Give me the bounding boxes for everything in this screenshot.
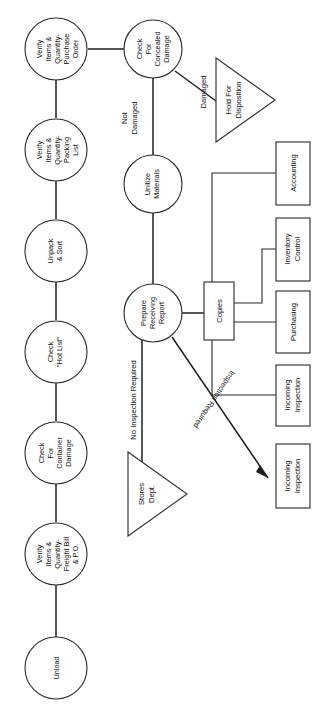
node-label-line: Damage: [64, 439, 73, 467]
node-check-container-damage[interactable]: Check For Container Damage: [25, 422, 87, 484]
node-label-line: Freight Bill: [62, 536, 71, 571]
node-label-line: Items &: [44, 37, 53, 62]
node-label-line: "Hot List": [55, 337, 64, 367]
node-label-line: Quantity-: [53, 539, 62, 569]
node-label-line: Check: [135, 38, 144, 59]
connector-copies-inventory: [234, 249, 276, 303]
node-unload[interactable]: Unload: [25, 637, 87, 699]
edge-label-line: Not: [120, 111, 129, 124]
connector-copies-accounting: [212, 173, 276, 282]
node-label-line: Damage: [162, 35, 171, 63]
node-label-line: & P.O.: [71, 544, 80, 565]
node-label-line: Stores: [137, 483, 146, 505]
edge-label-damaged: Damaged: [199, 76, 208, 109]
node-incoming-inspection-route[interactable]: Incoming Inspection: [276, 444, 310, 508]
node-label-line: Accounting: [289, 154, 298, 192]
node-stores-dept[interactable]: Stores Dept.: [128, 452, 187, 536]
node-label-line: Receiving: [148, 297, 157, 329]
node-hold-for-disposition[interactable]: Hold For Disposition: [216, 58, 275, 142]
node-label-line: Materials: [152, 169, 161, 199]
edge-label-line: Damaged: [199, 76, 208, 109]
node-verify-packing-list[interactable]: Verify Items & Quantity- Packing List: [25, 119, 87, 181]
node-label-line: Purchasing: [289, 303, 298, 341]
node-label-line: & Sort: [55, 241, 64, 261]
edge-label-line: Damaged: [130, 102, 139, 135]
node-accounting[interactable]: Accounting: [276, 142, 310, 205]
node-label-line: For: [144, 43, 153, 55]
node-label-line: Dept.: [147, 485, 156, 503]
connector-concealed-hold: [175, 71, 216, 101]
node-label-line: Verify: [35, 545, 44, 564]
node-check-hot-list[interactable]: Check "Hot List": [25, 321, 87, 383]
node-purchasing[interactable]: Purchasing: [276, 291, 310, 353]
node-label-line: Container: [55, 437, 64, 469]
node-label-line: Prepare: [139, 300, 148, 326]
edge-label-not-damaged: Not Damaged: [120, 102, 139, 135]
node-label-line: Check: [46, 341, 55, 362]
connector-layer: [56, 49, 276, 637]
node-label-line: Check: [37, 442, 46, 463]
node-label-line: Inventory: [283, 233, 292, 264]
node-label-line: Concealed: [153, 32, 162, 67]
node-verify-freight-bill[interactable]: Verify Items & Quantity- Freight Bill & …: [25, 523, 87, 585]
node-label-line: Copies: [215, 299, 224, 323]
node-label-line: Hold For: [224, 85, 233, 115]
node-label-line: Unload: [52, 656, 61, 679]
node-inventory-control[interactable]: Inventory Control: [276, 218, 310, 281]
node-label-line: Unitize: [143, 173, 152, 195]
edge-label-line: No Inspection Required: [129, 360, 138, 439]
node-label-line: Inspection: [293, 459, 302, 494]
connector-preparereport-incominginspection: [172, 337, 268, 478]
node-check-concealed-damage[interactable]: Check For Concealed Damage: [124, 20, 182, 78]
flowchart-canvas: Verify Items & Quantity- Purchase Order …: [0, 0, 328, 714]
node-incoming-inspection-copy[interactable]: Incoming Inspection: [276, 365, 310, 426]
node-label-line: Inspection: [293, 378, 302, 413]
edge-label-no-inspection-required: No Inspection Required: [129, 360, 138, 439]
arrowhead-inspection-required: [256, 465, 268, 478]
node-label-line: Quantity-: [53, 135, 62, 165]
node-copies[interactable]: Copies: [204, 282, 234, 340]
node-label-line: Order: [71, 39, 80, 58]
node-label-line: Purchase: [62, 34, 71, 65]
node-label-line: Items &: [44, 138, 53, 163]
node-label-line: Incoming: [283, 461, 292, 492]
node-label-line: Unpack: [46, 238, 55, 263]
node-label-line: Incoming: [283, 380, 292, 411]
node-verify-po[interactable]: Verify Items & Quantity- Purchase Order: [25, 18, 87, 80]
node-label-line: List: [71, 144, 80, 155]
node-unpack-and-sort[interactable]: Unpack & Sort: [25, 220, 87, 282]
node-label-line: Control: [293, 236, 302, 261]
node-prepare-receiving-report[interactable]: Prepare Receiving Report: [124, 284, 182, 342]
node-label-line: Packing: [62, 137, 71, 163]
node-label-line: Items &: [44, 542, 53, 567]
node-label-line: For: [46, 447, 55, 459]
node-label-line: Disposition: [234, 81, 243, 118]
node-label-line: Verify: [35, 141, 44, 160]
node-label-line: Verify: [35, 40, 44, 59]
node-label-line: Quantity-: [53, 34, 62, 64]
node-label-line: Report: [157, 302, 166, 324]
node-unitize-materials[interactable]: Unitize Materials: [124, 155, 182, 213]
